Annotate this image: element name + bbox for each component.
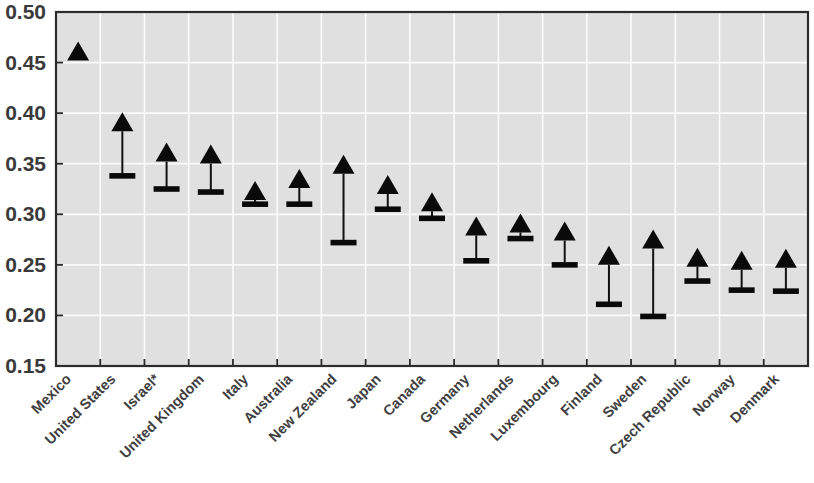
chart-figure: 0.500.450.400.350.300.250.200.15 MexicoU… [0, 0, 814, 483]
y-tick-label: 0.45 [5, 51, 46, 74]
y-tick-label: 0.40 [5, 101, 46, 124]
range-chart: 0.500.450.400.350.300.250.200.15 MexicoU… [0, 0, 814, 483]
y-tick-label: 0.30 [5, 202, 46, 225]
y-tick-label: 0.25 [5, 253, 46, 276]
y-tick-label: 0.15 [5, 354, 46, 377]
y-tick-label: 0.20 [5, 303, 46, 326]
y-tick-label: 0.35 [5, 152, 46, 175]
y-tick-label: 0.50 [5, 0, 46, 23]
